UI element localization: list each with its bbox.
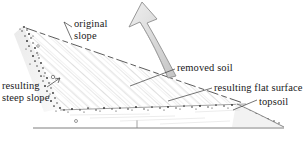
label-topsoil: topsoil bbox=[259, 96, 288, 108]
clast-marker bbox=[75, 120, 78, 123]
diagram-canvas bbox=[0, 0, 305, 143]
label-resulting-flat-surface: resulting flat surface bbox=[214, 82, 303, 94]
label-resulting-steep-slope: resulting steep slope bbox=[2, 80, 49, 103]
label-original-slope-line1: original bbox=[74, 18, 107, 30]
leader-original-slope bbox=[64, 22, 72, 40]
label-steep-slope-line2: steep slope bbox=[2, 92, 49, 104]
label-steep-slope-line1: resulting bbox=[2, 80, 49, 92]
ground-texture bbox=[70, 110, 240, 124]
label-removed-soil: removed soil bbox=[177, 62, 233, 74]
hillside-cut-diagram: original slope removed soil resulting fl… bbox=[0, 0, 305, 143]
label-original-slope: original slope bbox=[74, 18, 107, 41]
label-original-slope-line2: slope bbox=[74, 30, 107, 42]
